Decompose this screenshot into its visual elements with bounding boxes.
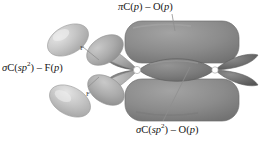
oxygen-nucleus-node — [212, 67, 218, 73]
carbon-nucleus-node — [133, 66, 140, 73]
atom-label-fluorine-top: F — [80, 44, 84, 52]
pi-orbital-top-lobe — [125, 21, 239, 63]
orbital-diagram-figure: πC(p) – O(p) σC(sp2) – F(p) σC(sp2) – O(… — [0, 0, 265, 141]
sigma-o-label-a-italic: sp — [152, 124, 161, 135]
sigma-f-label-b: F( — [45, 62, 54, 73]
sigma-cf-lower-bond — [44, 68, 136, 123]
sigma-o-label-b-end: ) — [195, 124, 199, 135]
sigma-o-label-dash: – — [168, 124, 179, 135]
pi-label-dash: – — [143, 1, 154, 12]
pi-orbital-bottom-lobe — [125, 79, 239, 121]
sigma-o-label-b: O( — [179, 124, 190, 135]
label-pi-c-o: πC(p) – O(p) — [118, 1, 173, 13]
sigma-f-label-a-italic: sp — [18, 62, 27, 73]
sigma-f-label-a: C( — [7, 62, 18, 73]
pi-label-a: C( — [123, 1, 134, 12]
sigma-o-label-a: C( — [141, 124, 152, 135]
atom-label-fluorine-bottom: F — [86, 90, 90, 98]
label-sigma-c-f: σC(sp2) – F(p) — [2, 61, 63, 73]
sigma-f-label-b-end: ) — [59, 62, 63, 73]
pi-label-b-end: ) — [169, 1, 173, 12]
sigma-f-label-dash: – — [34, 62, 45, 73]
pi-label-b: O( — [153, 1, 164, 12]
label-sigma-c-o: σC(sp2) – O(p) — [136, 123, 198, 135]
